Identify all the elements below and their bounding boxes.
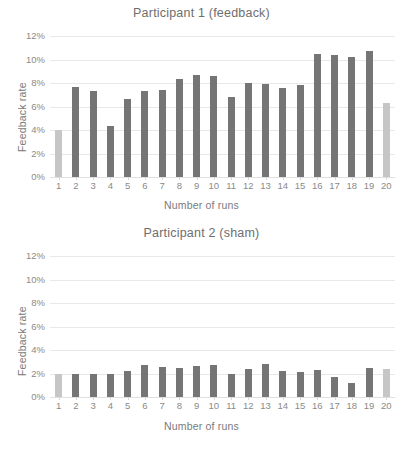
x-axis-tick-label: 16 [312, 181, 323, 191]
x-axis-tick-label: 3 [90, 401, 95, 411]
bar [159, 367, 166, 397]
bar [279, 371, 286, 397]
x-axis-label: Number of runs [0, 199, 403, 211]
x-axis-tick-label: 5 [125, 401, 130, 411]
bar [228, 374, 235, 397]
chart-panel-participant-2: Participant 2 (sham) Feedback rate 0%2%4… [0, 224, 403, 449]
bar [366, 368, 373, 397]
bar [176, 368, 183, 397]
chart-title: Participant 2 (sham) [0, 226, 403, 240]
y-axis-tick-label: 0% [31, 392, 45, 402]
y-axis-tick-label: 6% [31, 102, 45, 112]
x-axis-tick-label: 19 [364, 181, 375, 191]
bar [245, 369, 252, 397]
bar [297, 372, 304, 397]
bar [383, 369, 390, 397]
bar [107, 126, 114, 177]
y-axis-tick-label: 2% [31, 149, 45, 159]
x-axis-tick-label: 13 [260, 401, 271, 411]
x-axis-tick-label: 17 [329, 181, 340, 191]
bar [72, 87, 79, 177]
x-axis-tick-label: 15 [295, 181, 306, 191]
y-axis-tick-label: 6% [31, 322, 45, 332]
gridline [50, 256, 395, 257]
x-axis-tick-label: 19 [364, 401, 375, 411]
bar [124, 99, 131, 177]
bar [90, 374, 97, 398]
x-axis-tick-label: 1 [56, 181, 61, 191]
gridline [50, 36, 395, 37]
x-axis-tick-label: 14 [278, 401, 289, 411]
bar [90, 91, 97, 177]
gridline [50, 280, 395, 281]
bar [72, 374, 79, 397]
x-axis-tick-label: 4 [108, 401, 113, 411]
x-axis-tick-label: 18 [347, 181, 358, 191]
x-axis-tick-label: 17 [329, 401, 340, 411]
x-axis-tick-label: 13 [260, 181, 271, 191]
x-axis-tick-label: 20 [381, 181, 392, 191]
x-axis-tick-label: 12 [243, 401, 254, 411]
bar [279, 88, 286, 177]
x-axis-tick-label: 11 [226, 181, 236, 191]
y-axis-tick-label: 2% [31, 369, 45, 379]
x-axis-tick-label: 20 [381, 401, 392, 411]
bar [55, 130, 62, 177]
x-axis-tick-label: 9 [194, 181, 199, 191]
figure-two-bar-charts: Participant 1 (feedback) Feedback rate 0… [0, 0, 403, 449]
x-axis-tick-label: 1 [56, 401, 61, 411]
bar [107, 374, 114, 397]
gridline [50, 303, 395, 304]
gridline [50, 177, 395, 178]
gridline [50, 327, 395, 328]
bar [55, 374, 62, 397]
x-axis-tick-label: 2 [73, 401, 78, 411]
chart-title: Participant 1 (feedback) [0, 6, 403, 20]
y-axis-tick-label: 8% [31, 78, 45, 88]
x-axis-tick-label: 12 [243, 181, 254, 191]
y-axis-tick-label: 8% [31, 298, 45, 308]
bar [348, 383, 355, 397]
x-axis-tick-label: 18 [347, 401, 358, 411]
y-axis-label: Feedback rate [16, 82, 28, 152]
x-axis-tick-label: 6 [142, 181, 147, 191]
x-axis-tick-label: 16 [312, 401, 323, 411]
bar [228, 97, 235, 177]
y-axis-tick-label: 10% [26, 275, 45, 285]
x-axis-tick-label: 14 [278, 181, 289, 191]
x-axis-tick-label: 5 [125, 181, 130, 191]
x-axis-tick-label: 4 [108, 181, 113, 191]
y-axis-tick-label: 0% [31, 172, 45, 182]
gridline [50, 154, 395, 155]
x-axis-tick-label: 2 [73, 181, 78, 191]
bar [141, 91, 148, 177]
bar [383, 103, 390, 177]
x-axis-tick-label: 10 [209, 401, 220, 411]
x-axis-tick-label: 10 [209, 181, 220, 191]
y-axis-tick-label: 4% [31, 345, 45, 355]
bar [159, 90, 166, 177]
bar [210, 76, 217, 177]
bar [193, 75, 200, 177]
bar [314, 54, 321, 177]
x-axis-tick-label: 7 [159, 401, 164, 411]
x-axis-tick-label: 15 [295, 401, 306, 411]
x-axis-tick-label: 8 [177, 401, 182, 411]
gridline [50, 107, 395, 108]
bar [193, 366, 200, 397]
x-axis-tick-label: 8 [177, 181, 182, 191]
y-axis-tick-label: 12% [26, 251, 45, 261]
bar [262, 364, 269, 397]
y-axis-tick-label: 10% [26, 55, 45, 65]
y-axis-label: Feedback rate [16, 306, 28, 376]
plot-area: 0%2%4%6%8%10%12% [50, 256, 395, 397]
chart-panel-participant-1: Participant 1 (feedback) Feedback rate 0… [0, 0, 403, 224]
bar [348, 57, 355, 177]
bar [141, 365, 148, 397]
x-axis-tick-label: 3 [90, 181, 95, 191]
gridline [50, 350, 395, 351]
x-axis-tick-label: 7 [159, 181, 164, 191]
x-axis-tick-label: 11 [226, 401, 236, 411]
y-axis-tick-label: 4% [31, 125, 45, 135]
bar [245, 83, 252, 177]
